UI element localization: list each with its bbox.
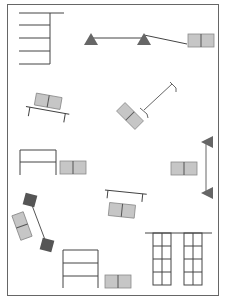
bench-with-box bbox=[102, 190, 146, 219]
beam-supports bbox=[84, 33, 187, 45]
ladder-rungs bbox=[19, 13, 64, 64]
diagram-canvas bbox=[0, 0, 227, 301]
triangle-support-icon bbox=[137, 33, 151, 45]
double-box bbox=[171, 162, 197, 175]
triangle-support-icon bbox=[84, 33, 98, 45]
triangle-support-icon bbox=[201, 187, 213, 199]
double-box bbox=[188, 34, 214, 47]
frame-box bbox=[63, 250, 131, 288]
dumbbell-box bbox=[12, 193, 54, 253]
rod-box bbox=[117, 82, 176, 129]
dark-square bbox=[23, 193, 38, 208]
grid-racks bbox=[145, 233, 212, 285]
frame-box bbox=[20, 150, 86, 175]
beam-supports-vertical bbox=[201, 136, 213, 199]
triangle-support-icon bbox=[201, 136, 213, 148]
dark-square bbox=[40, 238, 55, 253]
bench-with-box bbox=[24, 92, 71, 123]
